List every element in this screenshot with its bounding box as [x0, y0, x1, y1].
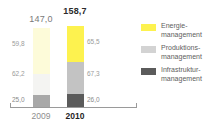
x-axis-tick-right [136, 103, 137, 108]
value-label-2010-infrastrukturmanagement: 26,0 [87, 96, 100, 103]
bar-segment-2010-infrastrukturmanagement[interactable] [67, 94, 84, 107]
bar-segment-2010-produktionsmanagement[interactable] [67, 62, 84, 94]
x-axis-tick-left [10, 103, 11, 108]
legend-label-line2: management [161, 53, 202, 62]
plot-area: 147,0 158,7 59,8 62,2 25,0 65,5 67,3 26,… [0, 0, 140, 128]
legend-item-produktionsmanagement[interactable]: Produktions- management [141, 44, 222, 61]
legend-item-energiemanagement[interactable]: Energie- management [141, 22, 222, 39]
legend: Energie- management Produktions- managem… [141, 22, 222, 88]
bar-2010[interactable] [67, 26, 84, 107]
legend-label-line2: management [161, 75, 202, 84]
legend-label-line1: Produktions- [161, 44, 200, 51]
legend-label-energiemanagement: Energie- management [161, 22, 202, 39]
value-label-2010-energiemanagement: 65,5 [87, 38, 100, 45]
legend-item-infrastrukturmanagement[interactable]: Infrastruktur- management [141, 66, 222, 83]
legend-swatch-icon-energiemanagement [141, 24, 156, 31]
legend-label-line1: Infrastruktur- [161, 66, 201, 73]
bar-segment-2009-energiemanagement[interactable] [33, 28, 50, 74]
legend-swatch-icon-infrastrukturmanagement [141, 68, 156, 75]
bar-2009[interactable] [33, 28, 50, 107]
legend-label-line2: management [161, 31, 202, 40]
value-label-2009-produktionsmanagement: 62,2 [12, 70, 25, 77]
x-axis-label-2010: 2010 [50, 111, 100, 121]
value-label-2010-produktionsmanagement: 67,3 [87, 70, 100, 77]
bar-segment-2010-energiemanagement[interactable] [67, 26, 84, 62]
legend-swatch-icon-produktionsmanagement [141, 46, 156, 53]
value-label-2009-energiemanagement: 59,8 [12, 40, 25, 47]
bar-segment-2009-infrastrukturmanagement[interactable] [33, 95, 50, 107]
legend-label-infrastrukturmanagement: Infrastruktur- management [161, 66, 202, 83]
total-label-2010: 158,7 [45, 6, 105, 16]
legend-label-produktionsmanagement: Produktions- management [161, 44, 202, 61]
legend-label-line1: Energie- [161, 22, 187, 29]
stacked-bar-chart: 147,0 158,7 59,8 62,2 25,0 65,5 67,3 26,… [0, 0, 222, 128]
bar-segment-2009-produktionsmanagement[interactable] [33, 74, 50, 95]
value-label-2009-infrastrukturmanagement: 25,0 [12, 96, 25, 103]
x-axis-line [10, 107, 137, 108]
